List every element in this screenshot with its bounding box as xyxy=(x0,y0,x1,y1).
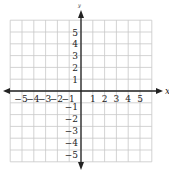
y-tick-label: −5 xyxy=(65,150,79,160)
y-tick-label: 1 xyxy=(72,75,78,85)
y-axis-down-arrow-icon xyxy=(78,162,84,170)
coordinate-plane: x y −5−4−3−2−112345 54321−1−2−3−4−5 xyxy=(0,0,169,173)
x-tick-label: 2 xyxy=(102,94,108,104)
x-tick-label: 4 xyxy=(125,94,131,104)
y-tick-label: 3 xyxy=(72,51,78,61)
x-tick-label: 3 xyxy=(114,94,120,104)
y-tick-label: 5 xyxy=(72,28,78,38)
y-axis-label: y xyxy=(77,2,81,9)
x-tick-label: 5 xyxy=(137,94,143,104)
x-axis-left-arrow-icon xyxy=(3,88,10,94)
y-tick-label: −3 xyxy=(65,126,79,136)
y-axis: y xyxy=(77,2,84,170)
y-axis-up-arrow-icon xyxy=(78,10,84,18)
x-axis-right-arrow-icon xyxy=(156,88,163,94)
x-tick-label: 1 xyxy=(90,94,96,104)
x-axis-label: x xyxy=(165,86,169,96)
y-tick-label: 4 xyxy=(72,39,78,49)
y-tick-label: −4 xyxy=(65,138,79,148)
y-tick-label: −1 xyxy=(65,102,78,112)
y-tick-label: 2 xyxy=(72,63,78,73)
y-tick-label: −2 xyxy=(65,114,78,124)
